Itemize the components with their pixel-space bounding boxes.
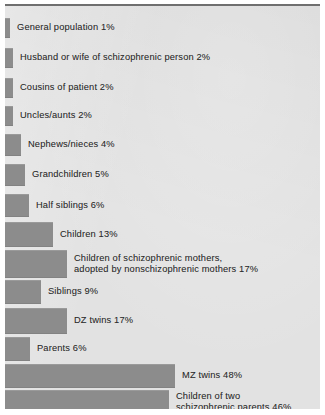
bar-row: Grandchildren 5% [5, 164, 320, 186]
bar-rect [5, 390, 169, 409]
bar-label: Siblings 9% [41, 286, 98, 297]
bar-rect [5, 308, 67, 334]
bar-rect [5, 134, 21, 156]
bar-label: MZ twins 48% [175, 370, 242, 381]
bar-row: Husband or wife of schizophrenic person … [5, 48, 320, 68]
bar-rect [5, 250, 67, 278]
bar-row: Nephews/nieces 4% [5, 134, 320, 156]
bar-rect [5, 194, 29, 217]
chart-plot-area: General population 1%Husband or wife of … [5, 4, 320, 409]
bar-label: Nephews/nieces 4% [21, 139, 115, 150]
bar-rect [5, 48, 13, 68]
bar-row: Children of schizophrenic mothers, adopt… [5, 250, 320, 278]
bar-label: Children 13% [53, 229, 118, 240]
bar-label: DZ twins 17% [67, 315, 133, 326]
bar-row: General population 1% [5, 18, 320, 38]
bar-label: Grandchildren 5% [25, 169, 109, 180]
bar-row: Cousins of patient 2% [5, 78, 320, 98]
bar-rect [5, 280, 41, 304]
bar-rect [5, 164, 25, 186]
bar-label: Children of two schizophrenic parents 46… [169, 391, 291, 409]
bar-rect [5, 337, 30, 361]
bar-row: Uncles/aunts 2% [5, 106, 320, 126]
bar-label: Children of schizophrenic mothers, adopt… [67, 253, 258, 276]
bar-row: MZ twins 48% [5, 364, 320, 388]
risk-bar-chart-figure: General population 1%Husband or wife of … [0, 0, 325, 415]
bar-row: Half siblings 6% [5, 194, 320, 217]
bar-label: General population 1% [10, 22, 115, 33]
bar-rect [5, 364, 175, 388]
bar-row: Siblings 9% [5, 280, 320, 304]
bar-label: Half siblings 6% [29, 200, 105, 211]
bar-row: Children of two schizophrenic parents 46… [5, 390, 320, 409]
bar-rect [5, 222, 53, 247]
bar-series: General population 1%Husband or wife of … [5, 6, 320, 409]
bar-label: Cousins of patient 2% [13, 82, 114, 93]
bar-label: Uncles/aunts 2% [13, 110, 92, 121]
bar-label: Husband or wife of schizophrenic person … [13, 52, 210, 63]
bar-label: Parents 6% [30, 343, 87, 354]
bar-row: Parents 6% [5, 337, 320, 361]
bar-rect [5, 78, 13, 98]
bar-row: Children 13% [5, 222, 320, 247]
bar-rect [5, 106, 13, 126]
bar-row: DZ twins 17% [5, 308, 320, 334]
